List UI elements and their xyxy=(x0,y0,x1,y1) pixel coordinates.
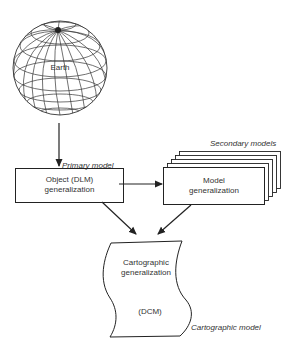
model-box-line2: generalization xyxy=(164,186,264,196)
cartographic-doc-line2: generalization xyxy=(108,268,184,278)
cartographic-generalization-document xyxy=(103,241,191,337)
cartographic-model-label: Cartographic model xyxy=(191,323,281,333)
earth-label: Earth xyxy=(40,63,80,73)
object-box-line1: Object (DLM) xyxy=(16,175,123,185)
object-box-line2: generalization xyxy=(16,185,123,195)
cartographic-doc-line1: Cartographic xyxy=(108,258,184,268)
model-box-line1: Model xyxy=(164,176,264,186)
secondary-models-label: Secondary models xyxy=(210,139,290,149)
primary-model-label: Primary model xyxy=(62,161,132,171)
arrow-model-to-cartographic xyxy=(158,205,191,234)
diagram-canvas xyxy=(0,0,291,348)
arrow-object-to-cartographic xyxy=(102,202,136,234)
cartographic-doc-dcm: (DCM) xyxy=(120,307,180,317)
